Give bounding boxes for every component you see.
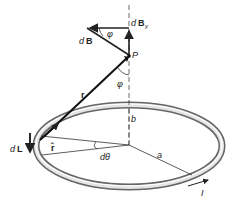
- label-dL-d: d: [10, 144, 16, 154]
- dtheta-arc: [94, 142, 97, 149]
- point-P: [127, 54, 131, 58]
- label-dB-d: d: [79, 36, 85, 46]
- phi-arc-upper: [99, 28, 103, 36]
- label-dL-L: L: [17, 144, 23, 154]
- label-current-I: I: [201, 188, 204, 198]
- current-loop-diagram: d B d B y φ P φ r b d L r̂ dθ a I: [0, 0, 233, 204]
- label-dBy-B: B: [138, 18, 145, 28]
- label-a: a: [157, 150, 162, 160]
- label-r-hat: r̂: [50, 142, 55, 153]
- label-dtheta: dθ: [100, 152, 110, 162]
- current-arrow: [188, 180, 208, 186]
- label-b: b: [131, 114, 136, 124]
- label-P: P: [132, 50, 138, 60]
- phi-arc-lower: [118, 68, 129, 75]
- label-r: r: [81, 90, 85, 100]
- label-phi-mid: φ: [117, 79, 123, 89]
- label-dB-B: B: [86, 36, 93, 46]
- radius-line-to-dL-lower: [42, 145, 129, 155]
- label-dBy-d: d: [131, 18, 137, 28]
- label-dBy-sub: y: [144, 23, 149, 29]
- label-phi-top: φ: [107, 29, 113, 39]
